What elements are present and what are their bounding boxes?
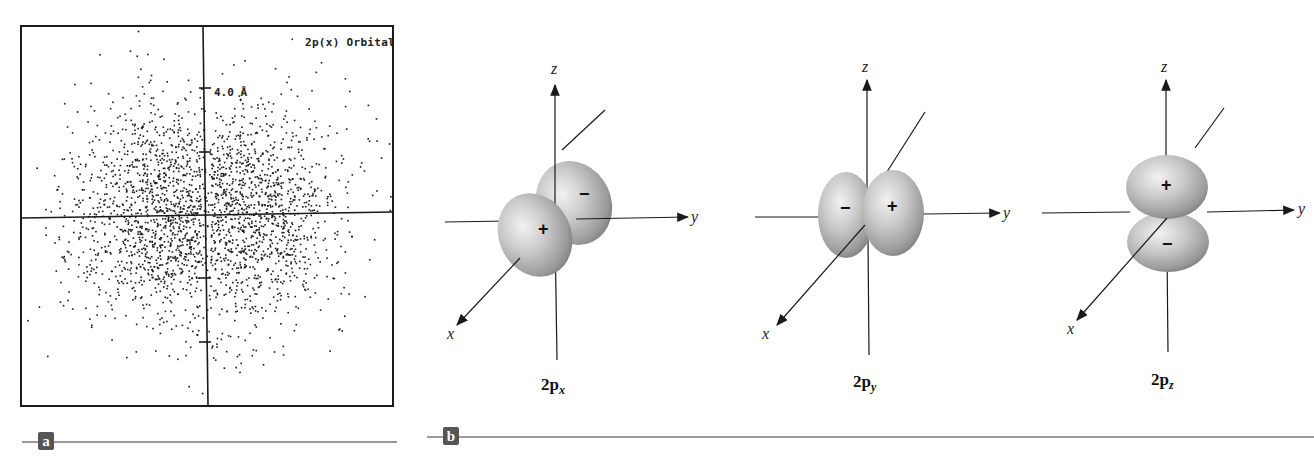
minus-sign: − <box>840 198 851 219</box>
x-axis-label: x <box>762 325 769 343</box>
x-axis-label: x <box>447 325 454 343</box>
panel-b-label-row: b <box>427 427 1314 447</box>
plus-sign: + <box>538 219 549 240</box>
minus-sign: − <box>1162 234 1173 255</box>
y-axis-label: y <box>1003 204 1010 222</box>
plot-title: 2p(x) Orbital <box>305 36 395 49</box>
plus-sign: + <box>1161 175 1172 196</box>
divider-rule <box>22 441 397 443</box>
minus-sign: − <box>579 184 590 205</box>
panel-a-label-row: a <box>22 432 397 452</box>
plus-sign: + <box>887 196 898 217</box>
panel-label-badge-b: b <box>443 427 459 445</box>
back-diagonal <box>562 110 605 150</box>
scale-label: 4.0 Å <box>214 86 247 99</box>
z-axis-label: z <box>862 58 868 76</box>
orbital-2pz-diagram <box>1042 80 1294 352</box>
x-axis-arrow <box>457 258 520 325</box>
caption-2py: 2py <box>853 372 876 395</box>
orbital-scatter-plot <box>0 0 410 473</box>
panel-label-badge-a: a <box>38 432 54 450</box>
y-axis-label: y <box>691 208 698 226</box>
panel-a: 2p(x) Orbital 4.0 Å a <box>0 0 410 473</box>
orbital-2py-diagram <box>755 80 1000 355</box>
y-axis-label: y <box>1298 200 1305 218</box>
orbital-2px-diagram <box>445 85 688 360</box>
divider-rule <box>427 436 1314 438</box>
caption-2px: 2px <box>541 375 565 398</box>
panel-b: z y x z y x z y x + − + − + − 2px 2py 2p… <box>410 0 1314 473</box>
caption-2pz: 2pz <box>1151 370 1174 393</box>
z-axis-label: z <box>551 60 557 78</box>
x-axis-label: x <box>1067 320 1074 338</box>
z-axis-label: z <box>1161 58 1167 76</box>
